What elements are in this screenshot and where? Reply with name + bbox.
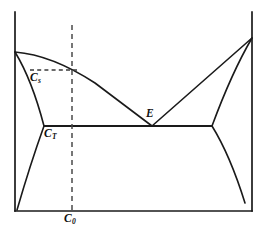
overall-composition-label: C0	[64, 213, 76, 225]
phase-diagram-figure: Cs CT C0 E	[0, 0, 266, 234]
eutectic-point-label-base: E	[146, 107, 154, 119]
overall-composition-label-subscript: 0	[72, 217, 76, 226]
phase-diagram-canvas	[0, 0, 266, 234]
solvus-right-curve	[212, 126, 245, 203]
solidus-right-curve	[212, 38, 252, 126]
liquidus-right-curve	[152, 38, 252, 126]
liquidus-left-curve	[15, 52, 152, 126]
eutectic-temperature-label-base: C	[44, 127, 52, 139]
solvus-left-curve	[17, 126, 44, 210]
eutectic-temperature-label: CT	[44, 128, 57, 140]
eutectic-point-label: E	[146, 108, 154, 120]
overall-composition-label-base: C	[64, 212, 72, 224]
solid-composition-label-base: C	[30, 71, 38, 83]
solid-composition-label: Cs	[30, 72, 41, 84]
solid-composition-label-subscript: s	[38, 76, 41, 85]
solidus-left-curve	[15, 52, 44, 126]
eutectic-temperature-label-subscript: T	[52, 132, 57, 141]
